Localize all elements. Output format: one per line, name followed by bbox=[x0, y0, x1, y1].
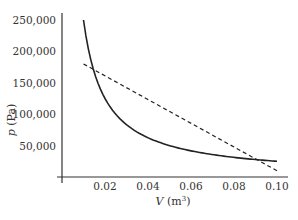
x-tick-label: 0.10 bbox=[265, 180, 288, 192]
x-tick-label: 0.06 bbox=[179, 180, 203, 192]
y-tick-label: 250,000 bbox=[13, 14, 56, 26]
y-tick-label: 150,000 bbox=[13, 77, 56, 89]
y-tick-label: 50,000 bbox=[19, 140, 56, 152]
x-tick-label: 0.08 bbox=[222, 180, 245, 192]
isotherm-curve bbox=[84, 20, 278, 161]
x-tick-label: 0.04 bbox=[136, 180, 160, 192]
data-series bbox=[84, 20, 278, 171]
pv-chart: 50,000100,000150,000200,000250,000 0.020… bbox=[0, 0, 298, 220]
dashed-line-path bbox=[84, 64, 278, 171]
x-axis-label: V (m3) bbox=[156, 195, 191, 208]
x-tick-label: 0.02 bbox=[93, 180, 116, 192]
y-tick-labels: 50,000100,000150,000200,000250,000 bbox=[13, 14, 56, 152]
y-tick-label: 200,000 bbox=[13, 45, 56, 57]
x-tick-labels: 0.020.040.060.080.10 bbox=[93, 180, 288, 192]
axes bbox=[57, 13, 288, 183]
y-axis-label: p (Pa) bbox=[5, 104, 18, 137]
y-tick-label: 100,000 bbox=[13, 108, 56, 120]
